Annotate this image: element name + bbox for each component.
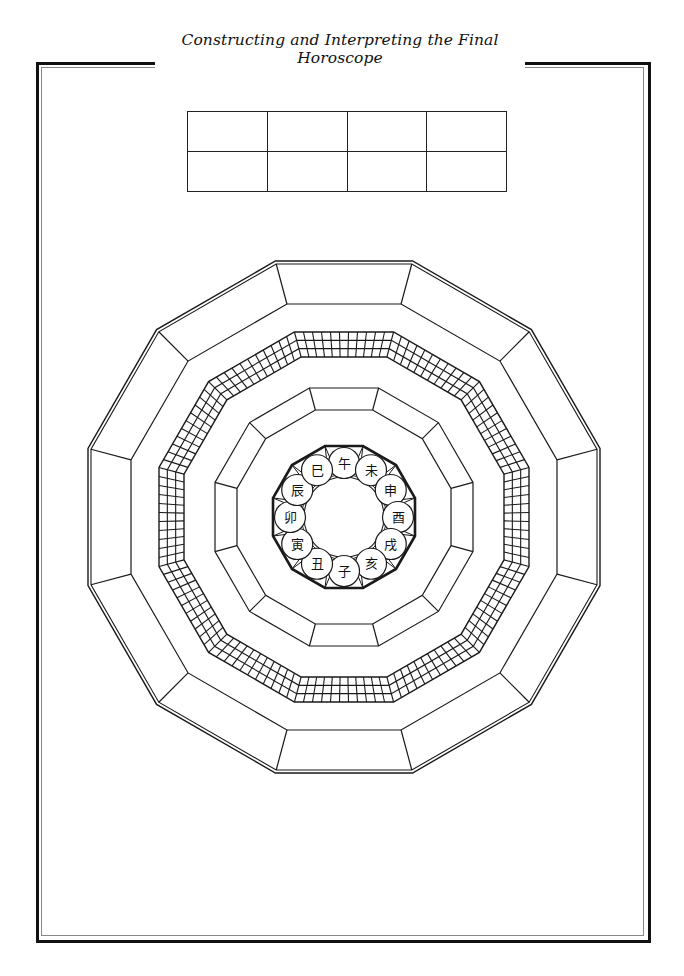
grid-band-radial-line [387, 677, 394, 702]
grid-band-radial-line [339, 677, 340, 702]
branch-label: 亥 [365, 556, 378, 571]
grid-band-radial-line [216, 377, 233, 396]
grid-band-radial-line [159, 521, 184, 522]
middle-ring-divider [215, 546, 237, 552]
branch-label: 未 [365, 463, 378, 478]
grid-band-radial-line [504, 536, 529, 539]
outer-ring-divider [159, 332, 188, 361]
middle-ring-divider [309, 388, 315, 410]
branch-label: 子 [338, 564, 351, 579]
grid-band-radial-line [204, 389, 223, 406]
branch-label: 巳 [311, 463, 324, 478]
grid-band-radial-line [504, 494, 529, 497]
grid-band-radial-line [159, 544, 184, 548]
grid-band-radial-line [159, 503, 184, 505]
grid-band-radial-line [488, 436, 511, 447]
grid-band-radial-line [379, 677, 384, 702]
horoscope-dodecagon-chart: 午未申酉戌亥子丑寅卯辰巳 [0, 0, 684, 976]
grid-band-radial-line [504, 544, 529, 548]
horoscope-worksheet-page: Constructing and Interpreting the Final … [0, 0, 684, 976]
grid-band-radial-line [371, 332, 375, 357]
grid-band-radial-line [159, 552, 184, 557]
grid-band-radial-line [400, 341, 409, 365]
grid-band-radial-line [348, 677, 349, 702]
grid-band-radial-line [356, 677, 358, 702]
grid-band-radial-line [321, 677, 324, 702]
grid-band-radial-line [496, 452, 520, 461]
branch-label: 午 [338, 456, 351, 471]
grid-band-radial-line [492, 444, 515, 454]
middle-ring-divider [422, 595, 438, 611]
grid-band-radial-line [159, 494, 184, 497]
grid-band-radial-line [159, 476, 184, 481]
grid-band-radial-line [159, 485, 184, 489]
grid-band-radial-line [504, 529, 529, 531]
grid-band-radial-line [500, 460, 524, 468]
grid-band-radial-line [504, 552, 529, 557]
grid-band-radial-line [496, 573, 520, 582]
outer-ring-divider [159, 673, 188, 702]
grid-band-radial-line [400, 669, 409, 693]
grid-band-radial-line [330, 677, 332, 702]
grid-band-radial-line [414, 350, 425, 373]
grid-band-radial-line [363, 332, 366, 357]
middle-ring-divider [250, 595, 266, 611]
grid-band-radial-line [312, 677, 316, 702]
branch-label: 丑 [311, 556, 324, 571]
grid-band-radial-line [330, 332, 332, 357]
grid-band-radial-line [263, 350, 274, 373]
grid-band-radial-line [271, 665, 281, 688]
grid-band-radial-line [461, 382, 479, 400]
grid-band-radial-line [204, 627, 223, 644]
grid-band-radial-line [216, 638, 233, 657]
branch-label: 申 [384, 483, 397, 498]
branch-label: 辰 [291, 483, 304, 498]
grid-band-radial-line [504, 521, 529, 522]
grid-band-radial-line [159, 536, 184, 539]
branch-label: 酉 [392, 510, 405, 525]
grid-band-radial-line [173, 444, 196, 454]
grid-band-radial-line [504, 476, 529, 481]
grid-band-radial-line [348, 332, 349, 357]
grid-band-radial-line [177, 436, 200, 447]
grid-band-radial-line [407, 665, 417, 688]
middle-ring-divider [373, 388, 379, 410]
grid-band-radial-line [263, 661, 274, 684]
grid-band-radial-line [164, 567, 188, 575]
middle-ring-divider [422, 423, 438, 439]
outer-ring-divider [91, 574, 131, 585]
grid-band-radial-line [303, 677, 308, 702]
middle-ring-divider [451, 482, 473, 488]
grid-band-radial-line [387, 332, 394, 357]
grid-band-radial-line [173, 580, 196, 590]
grid-band-radial-line [454, 638, 471, 657]
branch-label: 戌 [384, 537, 397, 552]
grid-band-radial-line [271, 346, 281, 369]
outer-ring-divider [500, 673, 529, 702]
outer-ring-divider [500, 332, 529, 361]
grid-band-radial-line [414, 661, 425, 684]
grid-band-radial-line [287, 337, 295, 361]
outer-ring-divider [401, 264, 412, 304]
grid-band-radial-line [168, 573, 192, 582]
branch-ring-center-hole [304, 477, 384, 557]
grid-band-radial-line [159, 467, 184, 474]
middle-ring-divider [451, 546, 473, 552]
grid-band-radial-line [294, 677, 301, 702]
grid-band-radial-line [159, 560, 184, 567]
grid-band-radial-line [504, 512, 529, 513]
grid-band-radial-line [504, 503, 529, 505]
grid-band-radial-line [363, 677, 366, 702]
outer-ring-divider [401, 730, 412, 770]
outer-ring-divider [91, 449, 131, 460]
grid-band-radial-line [504, 467, 529, 474]
branch-label: 卯 [284, 510, 297, 525]
grid-band-radial-line [279, 669, 288, 693]
grid-band-radial-line [488, 587, 511, 598]
grid-band-radial-line [465, 627, 484, 644]
grid-band-radial-line [461, 634, 479, 652]
grid-band-radial-line [407, 346, 417, 369]
grid-band-radial-line [303, 332, 308, 357]
grid-band-radial-line [279, 341, 288, 365]
grid-band-radial-line [209, 634, 227, 652]
